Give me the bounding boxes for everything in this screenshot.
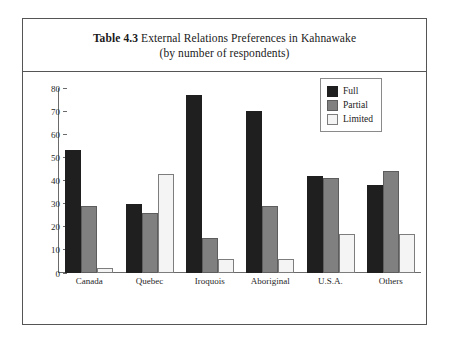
page-title: Table 4.3 External Relations Preferences…: [93, 31, 356, 46]
bar-limited: [97, 268, 113, 273]
bar-partial: [81, 206, 97, 273]
bar-limited: [399, 234, 415, 273]
bar-limited: [218, 259, 234, 273]
bar-limited: [339, 234, 355, 273]
legend-item: Limited: [327, 112, 373, 126]
bar-partial: [202, 238, 218, 273]
chart-legend: FullPartialLimited: [320, 78, 382, 132]
x-axis-label-usa: U.S.A.: [318, 276, 343, 286]
legend-label: Limited: [343, 114, 373, 125]
x-axis-label-quebec: Quebec: [136, 276, 163, 286]
legend-label: Full: [343, 86, 358, 97]
bar-partial: [383, 171, 399, 273]
legend-item: Partial: [327, 98, 373, 112]
bar-full: [307, 176, 323, 273]
bar-partial: [142, 213, 158, 273]
bar-full: [65, 150, 81, 273]
bar-group: [186, 88, 234, 273]
x-axis-label-iroquois: Iroquois: [195, 276, 225, 286]
bar-full: [186, 95, 202, 273]
x-axis-label-aboriginal: Aboriginal: [251, 276, 290, 286]
x-axis-label-others: Others: [379, 276, 403, 286]
bar-partial: [262, 206, 278, 273]
x-axis-label-canada: Canada: [76, 276, 103, 286]
legend-swatch-partial: [327, 100, 338, 111]
legend-label: Partial: [343, 100, 368, 111]
legend-swatch-limited: [327, 114, 338, 125]
title-subtitle: (by number of respondents): [159, 46, 289, 61]
bar-group: [246, 88, 294, 273]
plot-area: 80706050403020100 CanadaQuebecIroquoisAb…: [23, 72, 426, 324]
bar-group: [65, 88, 113, 273]
figure-frame: Table 4.3 External Relations Preferences…: [22, 18, 427, 325]
figure-title-block: Table 4.3 External Relations Preferences…: [23, 19, 426, 72]
title-table-number: Table 4.3: [93, 32, 138, 44]
bar-limited: [278, 259, 294, 273]
bar-full: [246, 111, 262, 273]
legend-item: Full: [327, 84, 373, 98]
x-axis-category-labels: CanadaQuebecIroquoisAboriginalU.S.A.Othe…: [59, 276, 421, 292]
bar-full: [126, 204, 142, 273]
title-text: External Relations Preferences in Kahnaw…: [138, 32, 356, 44]
bar-group: [126, 88, 174, 273]
bar-partial: [323, 178, 339, 273]
bar-limited: [158, 174, 174, 273]
bar-full: [367, 185, 383, 273]
legend-swatch-full: [327, 86, 338, 97]
